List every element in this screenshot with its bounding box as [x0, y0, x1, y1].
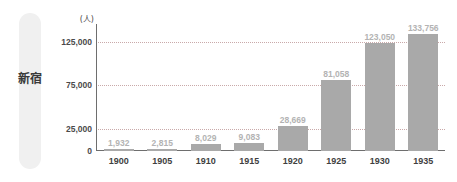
bar[interactable]: [191, 144, 221, 151]
y-axis-tick-label: 25,000: [40, 124, 92, 134]
bar[interactable]: [278, 126, 308, 151]
bar[interactable]: [408, 34, 438, 151]
bar-value-label: 133,756: [393, 23, 453, 33]
bar[interactable]: [104, 149, 134, 151]
y-axis-tick-label: 125,000: [40, 37, 92, 47]
y-axis-tick-label: 0: [40, 146, 92, 156]
y-axis-tick-label: 75,000: [40, 80, 92, 90]
bar[interactable]: [365, 43, 395, 151]
x-axis-tick-label: 1935: [393, 156, 453, 166]
bar[interactable]: [147, 149, 177, 151]
bar[interactable]: [234, 143, 264, 151]
population-bar-chart-figure: 新宿 (人) 025,00075,000125,000 190019051910…: [0, 0, 457, 182]
bar-value-label: 9,083: [219, 132, 279, 142]
region-label-pill: [19, 13, 41, 169]
bar[interactable]: [321, 80, 351, 151]
bar-value-label: 28,669: [263, 115, 323, 125]
bar-value-label: 81,058: [306, 69, 366, 79]
y-axis-unit-label: (人): [60, 13, 94, 24]
bar-value-label: 123,050: [350, 32, 410, 42]
